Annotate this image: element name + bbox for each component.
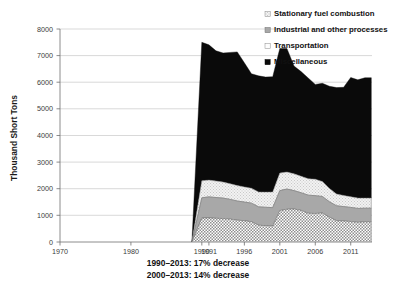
x-tick-label: 1996 xyxy=(236,247,252,256)
y-tick-label: 1000 xyxy=(37,211,53,220)
legend-item-transportation[interactable]: Transportation xyxy=(265,41,329,50)
y-tick-label: 3000 xyxy=(37,158,53,167)
x-tick-label: 2011 xyxy=(343,247,358,256)
x-tick-label: 1970 xyxy=(52,247,68,256)
x-tick-label: 2001 xyxy=(272,247,288,256)
legend-swatch-icon xyxy=(265,12,270,17)
legend-item-stationary-fuel-combustion[interactable]: Stationary fuel combustion xyxy=(265,9,375,18)
y-tick-label: 4000 xyxy=(37,131,53,140)
legend-swatch-icon xyxy=(265,44,270,49)
legend-item-label: Miscellaneous xyxy=(274,57,328,66)
legend-item-miscellaneous[interactable]: Miscellaneous xyxy=(265,57,328,66)
x-tick-label: 2006 xyxy=(307,247,323,256)
legend-item-label: Industrial and other processes xyxy=(274,25,388,34)
y-axis-title: Thousand Short Tons xyxy=(9,95,19,181)
y-tick-label: 5000 xyxy=(37,104,53,113)
legend-swatch-icon xyxy=(265,60,270,65)
annotation-line-1: 1990–2013: 17% decrease xyxy=(147,258,250,268)
y-tick-label: 6000 xyxy=(37,78,53,87)
legend-item-label: Transportation xyxy=(274,41,329,50)
legend-item-industrial-and-other-processes[interactable]: Industrial and other processes xyxy=(265,25,388,34)
legend-swatch-icon xyxy=(265,28,270,33)
y-tick-label: 0 xyxy=(49,238,53,247)
annotation-line-2: 2000–2013: 14% decrease xyxy=(147,270,250,280)
y-tick-label: 7000 xyxy=(37,51,53,60)
chart-container: 8000 7000 6000 5000 4000 3000 2000 1000 … xyxy=(0,0,395,291)
legend-item-label: Stationary fuel combustion xyxy=(274,9,375,18)
y-axis-tick-labels: 8000 7000 6000 5000 4000 3000 2000 1000 … xyxy=(37,25,53,247)
y-tick-label: 2000 xyxy=(37,184,53,193)
x-tick-label: 1991 xyxy=(201,247,217,256)
y-tick-label: 8000 xyxy=(37,25,53,34)
emissions-stacked-area-chart: 8000 7000 6000 5000 4000 3000 2000 1000 … xyxy=(0,0,395,291)
x-tick-label: 1980 xyxy=(123,247,139,256)
